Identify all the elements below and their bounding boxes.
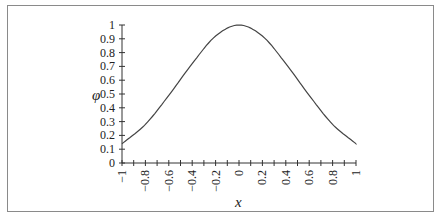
y-axis: 00.10.20.30.40.50.60.70.80.91 (100, 18, 125, 170)
x-tick-label: 0.8 (326, 170, 340, 185)
x-tick-label: 1 (349, 170, 363, 176)
x-tick-label: −0.6 (162, 170, 176, 192)
x-tick-label: −0.8 (138, 170, 152, 192)
x-tick-label: 0.6 (302, 170, 316, 185)
y-tick-label: 0.7 (100, 59, 115, 73)
x-tick-label: −0.2 (209, 170, 223, 192)
phi-curve (122, 25, 356, 144)
x-tick-label: −1 (115, 170, 129, 183)
x-tick-label: 0 (232, 170, 246, 176)
y-tick-label: 1 (109, 18, 115, 32)
y-tick-label: 0.1 (100, 142, 115, 156)
y-tick-label: 0.3 (100, 115, 115, 129)
y-tick-label: 0.9 (100, 32, 115, 46)
y-tick-label: 0.4 (100, 101, 115, 115)
x-axis: −1−0.8−0.6−0.4−0.200.20.40.60.81 (115, 160, 363, 192)
x-axis-label: x (234, 194, 242, 210)
x-tick-label: 0.2 (255, 170, 269, 185)
y-axis-label: φ (92, 87, 100, 103)
x-tick-label: −0.4 (185, 170, 199, 192)
y-tick-label: 0.5 (100, 87, 115, 101)
y-tick-label: 0 (109, 156, 115, 170)
y-tick-label: 0.6 (100, 73, 115, 87)
y-tick-label: 0.8 (100, 46, 115, 60)
x-tick-label: 0.4 (279, 170, 293, 185)
y-tick-label: 0.2 (100, 128, 115, 142)
chart-plot: 00.10.20.30.40.50.60.70.80.91 −1−0.8−0.6… (0, 0, 441, 221)
